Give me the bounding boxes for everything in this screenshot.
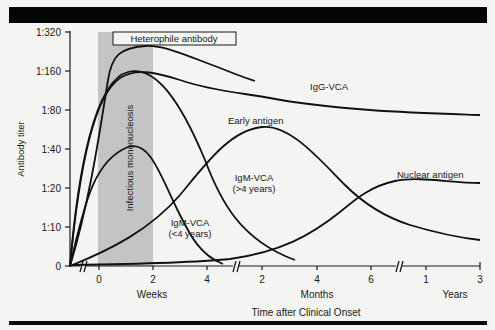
infectious-mononucleosis-label: Infectious mononucleosis	[124, 104, 135, 211]
x-tick-label: 2	[150, 274, 156, 285]
y-tick-label: 1:80	[42, 105, 62, 116]
x-tick-label: 3	[477, 274, 483, 285]
y-axis-title: Antibody titer	[15, 121, 26, 176]
heterophile-label: Heterophile antibody	[130, 33, 217, 44]
x-axis-title: Time after Clinical Onset	[251, 307, 360, 318]
x-tick-label: 1	[423, 274, 429, 285]
early-antigen-label: Early antigen	[228, 115, 283, 126]
y-tick-label: 1:320	[36, 27, 61, 38]
top-bar	[9, 7, 487, 23]
x-unit-weeks: Weeks	[137, 289, 167, 300]
y-tick-label: 0	[55, 261, 61, 272]
curve-heterophile	[70, 46, 255, 266]
y-tick-label: 1:40	[42, 144, 62, 155]
chart: 1:320 1:160 1:80 1:40 1:20 1:10 0 Antibo…	[0, 0, 495, 330]
igm-vca-old-sublabel: (>4 years)	[232, 183, 275, 194]
y-tick-label: 1:160	[36, 66, 61, 77]
nuclear-antigen-label: Nuclear antigen	[397, 169, 464, 180]
x-unit-years: Years	[442, 289, 467, 300]
y-axis	[65, 31, 70, 267]
igm-vca-young-sublabel: (<4 years)	[168, 228, 211, 239]
x-tick-label: 2	[259, 274, 265, 285]
igm-vca-young-label: IgM-VCA	[171, 217, 210, 228]
igg-vca-label: IgG-VCA	[310, 81, 349, 92]
x-tick-label: 4	[314, 274, 320, 285]
y-tick-label: 1:10	[42, 222, 62, 233]
igm-vca-old-label: IgM-VCA	[235, 172, 274, 183]
x-tick-label: 0	[96, 274, 102, 285]
bottom-rule	[9, 321, 487, 325]
x-unit-months: Months	[301, 289, 334, 300]
x-tick-label: 4	[204, 274, 210, 285]
x-tick-label: 6	[368, 274, 374, 285]
y-tick-label: 1:20	[42, 183, 62, 194]
